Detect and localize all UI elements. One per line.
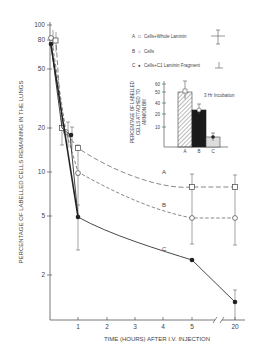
y-tick-2: 2	[41, 271, 45, 278]
marker-filled	[233, 300, 238, 305]
legend-key-b: B	[132, 49, 135, 54]
inset-x-label-b: B	[197, 149, 200, 154]
inset-y-tick-10: 10	[155, 125, 161, 130]
inset-y-tick-60: 60	[155, 82, 161, 87]
marker-filled	[76, 215, 81, 220]
y-tick-100: 100	[34, 21, 45, 28]
legend-label-b: Cells	[144, 49, 155, 54]
x-tick-3: 3	[133, 323, 137, 330]
marker-circle	[190, 216, 195, 221]
legend: A □ Cells+Whole Laminin B ○ Cells C ● Ce…	[132, 30, 225, 68]
x-tick-labels: 1 2 3 4 5 20	[76, 323, 239, 330]
series-b	[49, 36, 238, 221]
marker-circle	[233, 216, 238, 221]
legend-symbol-a: □	[138, 34, 141, 39]
inset-y-tick-50: 50	[155, 90, 161, 95]
marker-square	[233, 185, 238, 190]
inset-x-label-a: A	[183, 149, 186, 154]
y-tick-5: 5	[41, 212, 45, 219]
error-bar-symbol-icon	[211, 30, 225, 44]
x-tick-4: 4	[161, 323, 165, 330]
curve-label-b: B	[162, 202, 166, 208]
legend-symbol-c: ●	[138, 63, 141, 68]
legend-label-c: Cells+C1 Laminin Fragment	[144, 63, 201, 68]
inset-ylabel-line3: AMNION BM	[142, 99, 147, 125]
x-axis-label: TIME (HOURS) AFTER I.V. INJECTION	[104, 336, 210, 342]
inset-bar-chart: 60 50 40 20 10 A B C 3 Hr Incubation PER…	[130, 80, 235, 154]
legend-symbol-b: ○	[138, 49, 141, 54]
chart: 100 80 50 20 10 5 2 1 2 3 4 5 20 TIME (H…	[0, 0, 264, 355]
marker-square	[53, 38, 58, 43]
legend-key-a: A	[132, 34, 135, 39]
marker-filled	[49, 42, 54, 47]
y-tick-50: 50	[38, 65, 46, 72]
marker-filled	[190, 258, 195, 263]
inset-ylabel-line2: CELLS ATTACHED TO	[136, 88, 141, 135]
x-tick-1: 1	[76, 323, 80, 330]
inset-y-tick-40: 40	[155, 101, 161, 106]
marker-square	[190, 185, 195, 190]
half-error-bar-symbol-icon	[215, 62, 223, 68]
marker-circle	[49, 36, 54, 41]
legend-label-a: Cells+Whole Laminin	[144, 34, 187, 39]
inset-bar-b	[192, 110, 206, 147]
y-axis-label: PERCENTAGE OF LABELLED CELLS REMAINING I…	[18, 81, 24, 264]
x-tick-20: 20	[231, 323, 239, 330]
y-tick-80: 80	[38, 36, 46, 43]
y-tick-20: 20	[38, 124, 46, 131]
curve-label-a: A	[162, 169, 166, 175]
inset-bar-a	[178, 92, 192, 147]
marker-filled	[69, 133, 74, 138]
curve-label-c: C	[162, 246, 167, 252]
x-tick-2: 2	[105, 323, 109, 330]
inset-x-label-c: C	[211, 149, 215, 154]
marker-circle	[76, 171, 81, 176]
y-tick-labels: 100 80 50 20 10 5 2	[34, 21, 45, 278]
inset-ylabel-line1: PERCENTAGE OF LABELLED	[130, 80, 135, 143]
inset-title: 3 Hr Incubation	[204, 93, 235, 98]
inset-y-tick-20: 20	[155, 112, 161, 117]
legend-key-c: C	[132, 63, 136, 68]
marker-square	[76, 146, 81, 151]
y-tick-10: 10	[38, 168, 46, 175]
x-tick-5: 5	[190, 323, 194, 330]
